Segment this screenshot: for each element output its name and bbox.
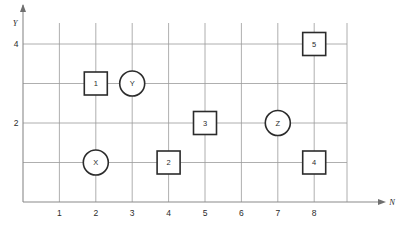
x-tick-label: 4: [166, 208, 171, 218]
y-tick-label: 2: [14, 118, 19, 128]
data-point-label: Y: [130, 79, 135, 88]
data-point-square: 2: [157, 151, 180, 174]
data-point-square: 5: [303, 33, 326, 56]
x-tick-label: 7: [275, 208, 280, 218]
x-axis-arrow-icon: [378, 199, 386, 205]
data-point-circle: X: [83, 150, 108, 175]
data-point-label: X: [93, 158, 98, 167]
data-point-label: 5: [312, 40, 316, 49]
x-tick-label: 2: [93, 208, 98, 218]
y-axis-title: Y: [13, 18, 19, 28]
chart-canvas: 1234567824 NY 12345XYZ: [0, 0, 410, 236]
data-markers: 12345XYZ: [83, 33, 325, 176]
x-tick-label: 3: [130, 208, 135, 218]
data-point-circle: Z: [265, 111, 290, 136]
data-point-square: 1: [84, 72, 107, 95]
x-tick-label: 8: [312, 208, 317, 218]
y-axis-arrow-icon: [20, 4, 26, 12]
data-point-square: 3: [194, 112, 217, 135]
axes-lines: [20, 4, 386, 205]
data-point-label: 2: [167, 158, 171, 167]
data-point-label: 3: [203, 119, 207, 128]
x-axis-title: N: [388, 197, 396, 207]
data-point-label: Z: [276, 119, 281, 128]
data-point-circle: Y: [120, 71, 145, 96]
data-point-label: 1: [94, 79, 98, 88]
y-tick-label: 4: [14, 39, 19, 49]
x-tick-label: 6: [239, 208, 244, 218]
data-point-square: 4: [303, 151, 326, 174]
x-tick-label: 5: [203, 208, 208, 218]
data-point-label: 4: [312, 158, 316, 167]
x-tick-label: 1: [57, 208, 62, 218]
gridlines: [23, 23, 347, 202]
scatter-plot: 1234567824 NY 12345XYZ: [0, 0, 410, 236]
